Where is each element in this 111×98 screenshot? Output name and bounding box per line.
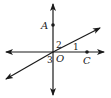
point-o-label: O — [56, 53, 64, 64]
angle-2-label: 2 — [56, 40, 62, 50]
point-c-dot — [85, 50, 89, 54]
point-c-label: C — [83, 55, 91, 66]
angle-1-label: 1 — [73, 42, 79, 52]
geometry-diagram: A C O 2 1 3 — [0, 0, 111, 98]
point-a-dot — [51, 23, 55, 27]
point-a-label: A — [40, 20, 48, 31]
angle-3-label: 3 — [47, 55, 53, 65]
